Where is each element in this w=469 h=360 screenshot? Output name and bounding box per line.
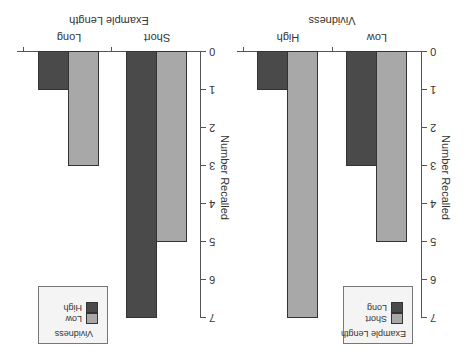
legend-swatch-low: [86, 313, 98, 324]
legend-label: High: [63, 303, 82, 313]
y-tick-label: 0: [209, 46, 223, 58]
x-category-label: Short: [117, 32, 197, 44]
y-tick: [201, 203, 206, 204]
y-tick-label: 1: [209, 84, 223, 96]
x-tick: [111, 47, 112, 52]
x-axis-title: Example Length: [19, 15, 199, 27]
y-tick: [201, 317, 206, 318]
y-tick-label: 2: [209, 122, 223, 134]
legend: Vividness Low High: [38, 286, 108, 344]
y-axis-title: Number Recalled: [219, 135, 231, 220]
bar-short-high: [126, 51, 157, 318]
bar-long-low: [68, 51, 99, 166]
legend-label: Low: [65, 314, 82, 324]
figure-rotated: 01234567 Number Recalled Low High Vividn…: [0, 0, 469, 360]
legend-title: Vividness: [55, 329, 93, 339]
legend-swatch-high: [86, 302, 98, 313]
bar-short-low: [156, 51, 187, 242]
y-tick: [201, 51, 206, 52]
bar-long-high: [38, 51, 69, 90]
y-tick-label: 6: [209, 274, 223, 286]
y-tick: [201, 127, 206, 128]
y-tick: [201, 279, 206, 280]
chart-example-length: 01234567 Number Recalled Short Long Exam…: [0, 0, 469, 360]
y-tick: [201, 241, 206, 242]
x-category-label: Long: [29, 32, 109, 44]
x-tick: [23, 47, 24, 52]
y-tick: [201, 89, 206, 90]
y-tick-label: 5: [209, 236, 223, 248]
y-tick-label: 7: [209, 312, 223, 324]
y-tick: [201, 165, 206, 166]
